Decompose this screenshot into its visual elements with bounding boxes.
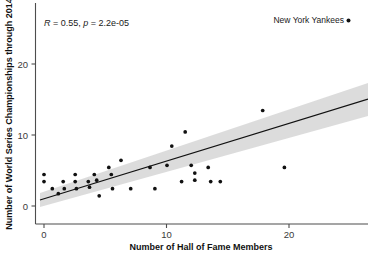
data-point: [283, 166, 287, 170]
y-tick-label-20: 20: [17, 59, 28, 70]
data-point: [73, 180, 77, 184]
data-point: [261, 109, 265, 113]
scatter-plot-figure: 20 10 0 0 10 20 Number of Hall of Fame M…: [0, 0, 368, 254]
y-axis-title: Number of World Series Championships thr…: [4, 0, 14, 230]
data-point: [183, 130, 187, 134]
x-tick-label-20: 20: [284, 229, 295, 240]
data-point: [75, 187, 79, 191]
data-point: [56, 192, 60, 196]
data-point: [73, 173, 77, 177]
y-tick-label-10: 10: [17, 130, 28, 141]
data-point: [97, 194, 101, 198]
correlation-p-value: = 2.2e-05: [88, 18, 129, 28]
data-point: [109, 173, 113, 177]
data-point: [206, 166, 210, 170]
data-point: [129, 187, 133, 191]
data-point: [107, 166, 111, 170]
data-point: [61, 180, 65, 184]
yankees-point-label: New York Yankees: [273, 15, 344, 25]
data-point: [50, 187, 54, 191]
x-axis-title: Number of Hall of Fame Members: [129, 242, 272, 252]
correlation-r-value: = 0.55,: [51, 18, 84, 28]
data-point: [42, 180, 46, 184]
data-point: [92, 173, 96, 177]
data-point: [42, 173, 46, 177]
data-point: [209, 180, 213, 184]
data-point: [193, 171, 197, 175]
data-point: [148, 166, 152, 170]
x-tick-label-0: 0: [41, 229, 46, 240]
regression-line: [40, 99, 368, 200]
data-point: [95, 178, 99, 182]
data-point: [153, 187, 157, 191]
data-point: [165, 163, 169, 167]
correlation-annotation: R = 0.55, p = 2.2e-05: [44, 18, 129, 28]
data-point: [218, 180, 222, 184]
data-point: [88, 185, 92, 189]
x-tick-label-10: 10: [161, 229, 172, 240]
data-point: [62, 187, 66, 191]
data-point: [193, 178, 197, 182]
data-point: [111, 187, 115, 191]
highlighted-data-point: [347, 19, 351, 23]
data-point: [119, 158, 123, 162]
data-point: [170, 144, 174, 148]
plot-canvas: 20 10 0 0 10 20 Number of Hall of Fame M…: [0, 0, 368, 254]
data-point: [86, 180, 90, 184]
data-point: [189, 163, 193, 167]
y-tick-label-0: 0: [23, 201, 28, 212]
data-point: [180, 180, 184, 184]
